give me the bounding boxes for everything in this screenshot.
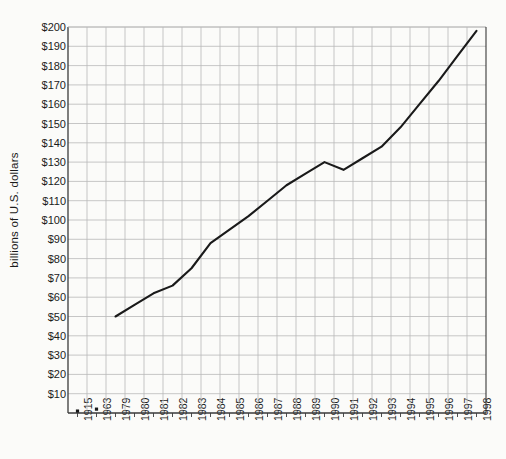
plot-area [0,0,506,459]
vertical-gridlines [87,27,467,413]
chart-page: billions of U.S. dollars $200$190$180$17… [0,0,506,459]
